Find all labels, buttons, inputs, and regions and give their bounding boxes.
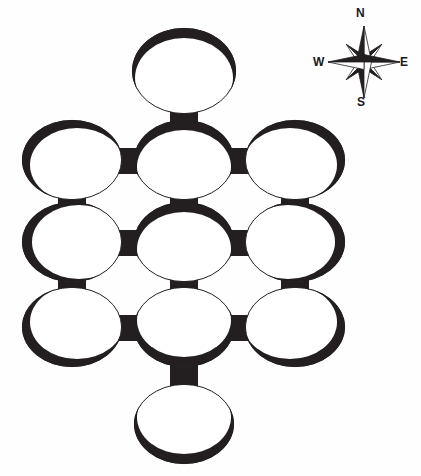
chamber-north-centre-chamber	[134, 120, 234, 200]
compass-label-west: W	[313, 56, 324, 68]
compass-label-south: S	[357, 96, 365, 108]
chamber-north-chamber	[132, 28, 236, 114]
compass-label-north: N	[356, 7, 365, 19]
chamber-south-east-chamber	[245, 287, 345, 367]
chamber-south-centre-chamber	[134, 287, 234, 367]
chamber-north-east-chamber	[245, 120, 345, 200]
site-plan-drawing	[0, 0, 421, 476]
chamber-middle-centre-chamber	[134, 202, 234, 282]
chamber-middle-east-chamber	[245, 202, 345, 282]
chamber-middle-west-chamber	[22, 202, 122, 282]
chambers-layer	[22, 28, 345, 464]
chamber-north-west-chamber	[22, 120, 122, 200]
chamber-south-chamber	[134, 384, 234, 464]
chamber-south-west-chamber	[22, 287, 122, 367]
compass-point-w-right	[328, 62, 364, 70]
compass-point-s-right	[364, 62, 372, 98]
compass-point-w-left	[328, 55, 364, 63]
compass-rose-icon	[328, 26, 400, 98]
compass-point-e-right	[364, 55, 400, 63]
figure-canvas: N S W E	[0, 0, 421, 476]
compass-label-east: E	[400, 56, 408, 68]
